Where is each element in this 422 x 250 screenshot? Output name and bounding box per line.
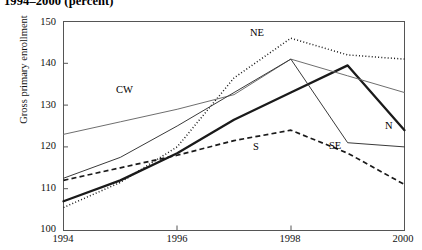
- series-label-s: S: [253, 141, 259, 152]
- x-tick-label-1996: 1996: [155, 233, 199, 244]
- series-line-s: [64, 130, 405, 184]
- series-label-se: SE: [329, 140, 341, 151]
- y-tick-label-110: 110: [28, 182, 56, 193]
- y-tick-label-130: 130: [28, 99, 56, 110]
- series-label-n: N: [385, 120, 393, 131]
- x-tick-label-2000: 2000: [381, 233, 422, 244]
- y-axis-label: Gross primary enrollment: [18, 0, 29, 155]
- x-axis-ticks: [64, 226, 405, 231]
- series-layer: [64, 38, 405, 207]
- plot-area: [0, 0, 422, 250]
- y-tick-label-140: 140: [28, 57, 56, 68]
- series-line-n: [64, 65, 405, 201]
- x-tick-label-1994: 1994: [41, 233, 85, 244]
- chart-figure: 1994–2000 (percent) Gross primary enroll…: [0, 0, 422, 250]
- x-tick-label-1998: 1998: [268, 233, 312, 244]
- y-tick-label-150: 150: [28, 16, 56, 27]
- axis-frame: [63, 22, 405, 231]
- y-tick-label-120: 120: [28, 140, 56, 151]
- series-label-ne: NE: [250, 27, 264, 38]
- series-label-cw: CW: [116, 84, 133, 95]
